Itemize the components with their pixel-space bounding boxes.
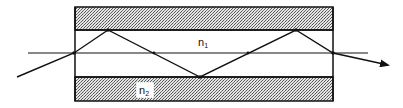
ray-node	[153, 52, 156, 55]
core-index-label: n1	[198, 36, 208, 49]
ray-node	[331, 51, 335, 55]
ray-node	[106, 28, 110, 32]
ray-node	[294, 28, 298, 32]
ray-node	[72, 51, 76, 55]
top-cladding	[75, 7, 333, 30]
ray-node	[247, 52, 250, 55]
bottom-cladding	[75, 77, 333, 101]
fiber-diagram: n1 n2	[0, 0, 403, 108]
ray-node	[198, 75, 202, 79]
